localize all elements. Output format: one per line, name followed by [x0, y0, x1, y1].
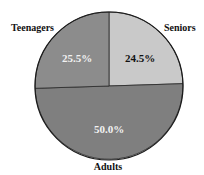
category-label-seniors: Seniors — [164, 22, 196, 33]
slice-label-teenagers: 25.5% — [62, 52, 92, 64]
category-label-adults: Adults — [94, 161, 122, 172]
pie-slice-adults — [35, 84, 183, 160]
pie-chart: 24.5% 25.5% 50.0% Seniors Teenagers Adul… — [0, 0, 204, 175]
category-label-teenagers: Teenagers — [11, 22, 54, 33]
slice-label-seniors: 24.5% — [125, 52, 155, 64]
slice-label-adults: 50.0% — [94, 123, 124, 135]
pie-slices — [35, 12, 183, 159]
